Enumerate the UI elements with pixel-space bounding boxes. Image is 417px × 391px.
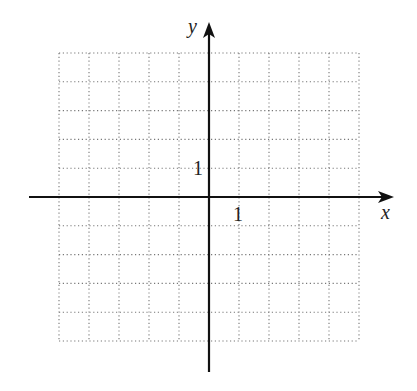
x-axis-label: x: [380, 201, 390, 223]
coordinate-plane: x y 1 1: [0, 0, 417, 391]
y-tick-label-1: 1: [193, 157, 203, 179]
x-tick-label-1: 1: [233, 203, 243, 225]
y-axis-label: y: [186, 15, 197, 38]
